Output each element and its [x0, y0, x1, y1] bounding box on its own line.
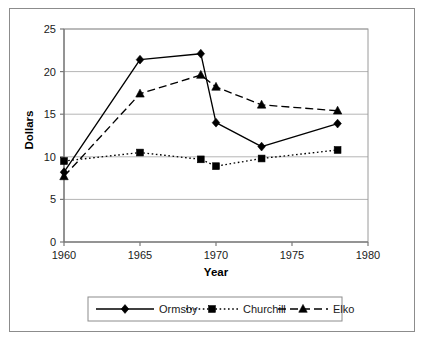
data-point-churchill-1970 — [213, 163, 220, 170]
y-axis-ticks: 0510152025 — [44, 23, 64, 248]
data-point-churchill-1973 — [258, 155, 265, 162]
x-tick-label-1965: 1965 — [128, 249, 152, 261]
legend-marker-churchill — [209, 306, 216, 313]
y-tick-label-5: 5 — [50, 193, 56, 205]
x-tick-label-1970: 1970 — [204, 249, 228, 261]
x-tick-label-1980: 1980 — [356, 249, 380, 261]
y-tick-label-20: 20 — [44, 66, 56, 78]
x-axis-title: Year — [204, 266, 229, 278]
x-tick-label-1975: 1975 — [280, 249, 304, 261]
legend-label-elko: Elko — [333, 303, 354, 315]
y-axis-title: Dollars — [23, 111, 35, 150]
chart-legend: OrmsbyChurchillElko — [88, 297, 354, 321]
x-tick-label-1960: 1960 — [52, 249, 76, 261]
y-tick-label-15: 15 — [44, 108, 56, 120]
data-point-churchill-1969 — [197, 156, 204, 163]
data-point-churchill-1978 — [334, 147, 341, 154]
data-point-churchill-1960 — [61, 158, 68, 165]
legend-label-ormsby: Ormsby — [159, 303, 198, 315]
x-axis-ticks: 19601965197019751980 — [52, 242, 380, 261]
y-tick-label-0: 0 — [50, 236, 56, 248]
line-chart-figure: 0510152025 19601965197019751980 Dollars … — [0, 0, 426, 342]
data-point-churchill-1965 — [137, 149, 144, 156]
y-tick-label-25: 25 — [44, 23, 56, 35]
y-tick-label-10: 10 — [44, 151, 56, 163]
chart-container: 0510152025 19601965197019751980 Dollars … — [0, 0, 426, 342]
plot-area-background — [64, 29, 368, 242]
